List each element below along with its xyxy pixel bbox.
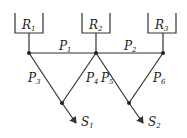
label-p3: P3 xyxy=(27,71,41,86)
label-p4: P4 xyxy=(85,71,99,86)
junction-node xyxy=(60,101,64,105)
label-r2: R2 xyxy=(88,18,103,33)
sink-s1-arrow xyxy=(62,103,76,123)
label-p2: P2 xyxy=(123,39,137,54)
pipe-network-diagram: R1 R2 R3 P1 P2 P3 P4 P5 P6 S1 S2 xyxy=(0,0,187,138)
junction-node xyxy=(161,51,165,55)
junction-node xyxy=(127,101,131,105)
label-r1: R1 xyxy=(21,18,36,33)
label-s2: S2 xyxy=(148,115,161,130)
label-r3: R3 xyxy=(154,18,169,33)
label-p1: P1 xyxy=(58,39,72,54)
junction-node xyxy=(27,51,31,55)
label-s1: S1 xyxy=(81,115,94,130)
label-p6: P6 xyxy=(152,71,166,86)
junction-node xyxy=(94,51,98,55)
label-p5: P5 xyxy=(100,71,114,86)
sink-s2-arrow xyxy=(129,103,143,123)
